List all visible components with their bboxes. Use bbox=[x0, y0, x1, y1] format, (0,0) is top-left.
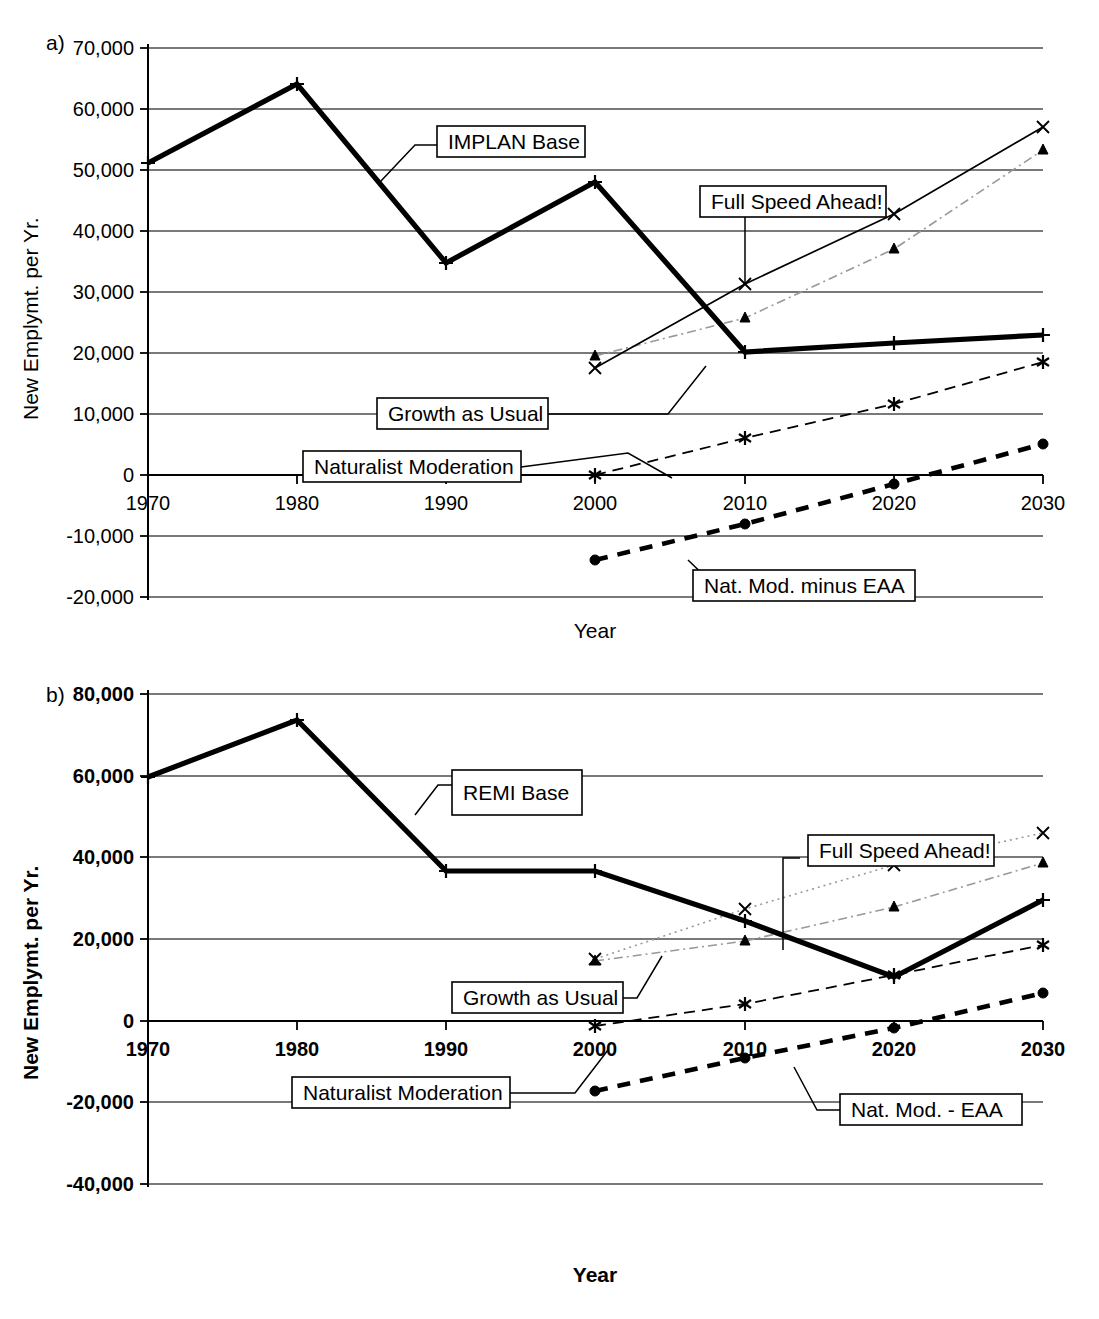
y-tick-label: 60,000 bbox=[73, 765, 134, 787]
chart-panel-b: b) New Emplymt. per Yr. 80,000 bbox=[0, 660, 1099, 1319]
y-tick-label: 0 bbox=[123, 1010, 134, 1032]
marker-circle bbox=[1038, 439, 1048, 449]
marker-circle bbox=[740, 1053, 750, 1063]
x-tick-label: 2030 bbox=[1021, 492, 1066, 514]
series-line-full-speed-ahead-a bbox=[595, 127, 1043, 368]
y-tick-label: 10,000 bbox=[73, 403, 134, 425]
x-tick-label: 2030 bbox=[1021, 1038, 1066, 1060]
y-tick-label: 30,000 bbox=[73, 281, 134, 303]
x-tick-label: 2000 bbox=[573, 1038, 618, 1060]
marker-asterisk bbox=[1037, 355, 1049, 369]
y-tick-label: 70,000 bbox=[73, 37, 134, 59]
marker-x bbox=[1037, 827, 1049, 839]
y-tick-label: 40,000 bbox=[73, 220, 134, 242]
marker-asterisk bbox=[888, 397, 900, 411]
marker-plus bbox=[141, 770, 155, 784]
series-markers-nat-mod-eaa-b bbox=[590, 988, 1048, 1096]
x-tick-label: 2010 bbox=[723, 492, 768, 514]
callout-full-speed-ahead: Full Speed Ahead! bbox=[700, 186, 886, 217]
series-markers-implan-base-a bbox=[141, 77, 1050, 359]
x-axis-title-a: Year bbox=[574, 619, 616, 642]
callout-nat-mod-eaa-b: Nat. Mod. - EAA bbox=[840, 1094, 1022, 1125]
y-axis-title-b: New Emplymt. per Yr. bbox=[19, 866, 42, 1080]
callout-nat-mod-minus-eaa: Nat. Mod. minus EAA bbox=[693, 570, 915, 601]
callout-leader-remi-base bbox=[415, 785, 452, 815]
callout-implan-base: IMPLAN Base bbox=[437, 126, 585, 157]
x-tick-label: 1970 bbox=[126, 1038, 171, 1060]
marker-plus bbox=[738, 914, 752, 928]
marker-plus bbox=[588, 864, 602, 878]
marker-circle bbox=[590, 555, 600, 565]
series-line-nat-mod-eaa-b bbox=[595, 993, 1043, 1091]
callout-remi-base: REMI Base bbox=[452, 770, 582, 815]
chart-panel-a: a) New Emplymt. per Yr. bbox=[0, 0, 1099, 660]
marker-triangle bbox=[889, 243, 899, 253]
y-tick-label: 20,000 bbox=[73, 342, 134, 364]
marker-circle bbox=[1038, 988, 1048, 998]
y-tick-label: -20,000 bbox=[66, 586, 134, 608]
y-tick-label: 60,000 bbox=[73, 98, 134, 120]
chart-a-svg: a) New Emplymt. per Yr. bbox=[0, 0, 1099, 660]
y-tick-label: 40,000 bbox=[73, 846, 134, 868]
x-tick-label: 1970 bbox=[126, 492, 171, 514]
x-tick-label: 1990 bbox=[424, 492, 469, 514]
callout-label: Nat. Mod. - EAA bbox=[851, 1098, 1003, 1121]
y-axis-title-a: New Emplymt. per Yr. bbox=[19, 217, 42, 420]
x-axis-title-b: Year bbox=[573, 1263, 617, 1286]
callout-full-speed-ahead-b: Full Speed Ahead! bbox=[808, 835, 994, 866]
callout-naturalist-moderation: Naturalist Moderation bbox=[303, 451, 521, 482]
marker-circle bbox=[590, 1086, 600, 1096]
y-tick-label: 80,000 bbox=[73, 683, 134, 705]
callout-leader-growth-as-usual bbox=[548, 366, 706, 414]
series-line-implan-base-a bbox=[148, 84, 1043, 352]
callout-growth-as-usual-b: Growth as Usual bbox=[452, 982, 623, 1013]
marker-x bbox=[739, 903, 751, 915]
marker-plus bbox=[1036, 328, 1050, 342]
chart-b-svg: b) New Emplymt. per Yr. 80,000 bbox=[0, 660, 1099, 1319]
x-tick-label: 1980 bbox=[275, 1038, 320, 1060]
callout-label: Growth as Usual bbox=[463, 986, 618, 1009]
callout-label: Naturalist Moderation bbox=[314, 455, 514, 478]
x-tick-label: 1990 bbox=[424, 1038, 469, 1060]
callout-label: Full Speed Ahead! bbox=[711, 190, 883, 213]
callout-label: Full Speed Ahead! bbox=[819, 839, 991, 862]
marker-asterisk bbox=[739, 431, 751, 445]
marker-plus bbox=[887, 336, 901, 350]
callout-label: Nat. Mod. minus EAA bbox=[704, 574, 905, 597]
y-tick-label: 0 bbox=[123, 464, 134, 486]
series-line-growth-as-usual-a bbox=[595, 150, 1043, 356]
panel-letter-a: a) bbox=[46, 31, 65, 54]
figure-page: a) New Emplymt. per Yr. bbox=[0, 0, 1099, 1319]
marker-circle bbox=[740, 519, 750, 529]
y-tick-label: -20,000 bbox=[66, 1091, 134, 1113]
y-tick-label: -40,000 bbox=[66, 1173, 134, 1195]
marker-x bbox=[888, 208, 900, 220]
marker-circle bbox=[889, 1023, 899, 1033]
x-tick-label: 1980 bbox=[275, 492, 320, 514]
callout-naturalist-moderation-b: Naturalist Moderation bbox=[292, 1077, 510, 1108]
callout-leader-growth-as-usual-b bbox=[623, 956, 662, 998]
series-line-nat-mod-minus-eaa-a bbox=[595, 444, 1043, 560]
callout-label: IMPLAN Base bbox=[448, 130, 580, 153]
x-tick-label: 2020 bbox=[872, 492, 917, 514]
y-tick-label: -10,000 bbox=[66, 525, 134, 547]
y-tick-label: 20,000 bbox=[73, 928, 134, 950]
callout-label: REMI Base bbox=[463, 781, 569, 804]
callout-growth-as-usual: Growth as Usual bbox=[377, 398, 548, 429]
marker-circle bbox=[889, 479, 899, 489]
callout-leader-implan-base bbox=[380, 145, 437, 182]
panel-letter-b: b) bbox=[46, 683, 65, 706]
callout-label: Growth as Usual bbox=[388, 402, 543, 425]
callout-leader-nat-mod-eaa-b bbox=[794, 1067, 840, 1110]
x-tick-label: 2020 bbox=[872, 1038, 917, 1060]
series-line-naturalist-moderation-a bbox=[595, 362, 1043, 475]
x-tick-label: 2000 bbox=[573, 492, 618, 514]
marker-triangle bbox=[1038, 144, 1048, 154]
marker-x bbox=[1037, 121, 1049, 133]
y-tick-label: 50,000 bbox=[73, 159, 134, 181]
callout-label: Naturalist Moderation bbox=[303, 1081, 503, 1104]
marker-triangle bbox=[1038, 857, 1048, 867]
series-line-naturalist-moderation-b bbox=[595, 945, 1043, 1026]
marker-x bbox=[589, 362, 601, 374]
